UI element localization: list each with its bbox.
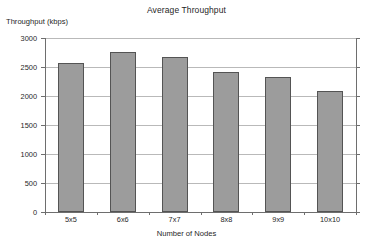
- chart-container: Average Throughput Throughput (kbps) 050…: [0, 0, 373, 245]
- y-tick-label: 3000: [3, 34, 37, 43]
- y-tick-mark-right: [356, 154, 360, 155]
- bar: [213, 72, 239, 212]
- y-axis-title: Throughput (kbps): [6, 17, 68, 26]
- x-tick-label: 6x6: [98, 215, 148, 224]
- y-tick-mark: [41, 125, 45, 126]
- y-tick-label: 2500: [3, 63, 37, 72]
- y-tick-mark-right: [356, 38, 360, 39]
- y-tick-mark: [41, 183, 45, 184]
- y-tick-mark: [41, 154, 45, 155]
- x-tick-label: 10x10: [305, 215, 355, 224]
- x-tick-label: 9x9: [253, 215, 303, 224]
- x-tick-mark: [356, 212, 357, 215]
- y-tick-label: 2000: [3, 92, 37, 101]
- chart-title: Average Throughput: [0, 5, 373, 15]
- bar: [58, 63, 84, 212]
- bars-layer: [45, 38, 356, 212]
- y-tick-label: 0: [3, 208, 37, 217]
- x-tick-mark: [149, 212, 150, 215]
- y-tick-label: 1500: [3, 121, 37, 130]
- x-tick-label: 7x7: [150, 215, 200, 224]
- x-tick-mark: [45, 212, 46, 215]
- x-tick-mark: [201, 212, 202, 215]
- y-tick-mark-right: [356, 183, 360, 184]
- x-tick-mark: [252, 212, 253, 215]
- bar: [162, 57, 188, 212]
- y-tick-mark-right: [356, 67, 360, 68]
- x-tick-mark: [304, 212, 305, 215]
- y-tick-mark: [41, 67, 45, 68]
- x-tick-mark: [97, 212, 98, 215]
- x-tick-label: 5x5: [46, 215, 96, 224]
- y-tick-mark-right: [356, 96, 360, 97]
- y-tick-label: 1000: [3, 150, 37, 159]
- bar: [265, 77, 291, 212]
- y-tick-mark: [41, 38, 45, 39]
- x-axis-title: Number of Nodes: [0, 229, 373, 238]
- y-tick-mark-right: [356, 125, 360, 126]
- y-axis-line: [45, 38, 46, 213]
- y-tick-label: 500: [3, 179, 37, 188]
- bar: [110, 52, 136, 212]
- bar: [317, 91, 343, 212]
- y-tick-mark: [41, 96, 45, 97]
- x-tick-label: 8x8: [201, 215, 251, 224]
